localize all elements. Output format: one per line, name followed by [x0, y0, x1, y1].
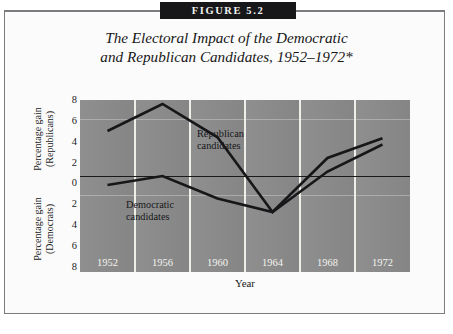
xtick-1968: 1968 — [300, 257, 355, 268]
yaxis-title-republicans-line-2: (Republicans) — [44, 100, 56, 178]
ytick-upper-4: 4 — [57, 137, 77, 147]
figure-banner: FIGURE 5.2 — [160, 2, 296, 19]
xtick-1960: 1960 — [190, 257, 245, 268]
series-line-republican — [108, 104, 383, 212]
chart-series-svg — [80, 100, 410, 272]
ytick-upper-2: 2 — [57, 158, 77, 168]
series-label-democratic-line-2: candidates — [126, 211, 174, 223]
banner-rule-right — [296, 10, 445, 11]
ytick-zero: 0 — [57, 178, 77, 188]
chart-plot-area: Republican candidates Democratic candida… — [80, 100, 410, 272]
xtick-1964: 1964 — [245, 257, 300, 268]
figure-title: The Electoral Impact of the Democratic a… — [0, 28, 453, 66]
figure-title-line-2: and Republican Candidates, 1952–1972* — [0, 47, 453, 66]
figure-title-line-1: The Electoral Impact of the Democratic — [0, 28, 453, 47]
xaxis-title: Year — [80, 277, 410, 289]
xtick-1952: 1952 — [80, 257, 135, 268]
ytick-lower-8: 8 — [57, 262, 77, 272]
ytick-upper-8: 8 — [57, 95, 77, 105]
series-label-democratic-line-1: Democratic — [126, 199, 174, 211]
ytick-lower-2: 2 — [57, 199, 77, 209]
series-label-republican: Republican candidates — [197, 128, 244, 151]
yaxis-title-republicans-line-1: Percentage gain — [32, 100, 44, 178]
yaxis-title-democrats-line-2: (Democrats) — [44, 186, 56, 272]
banner-rule-left — [4, 10, 162, 11]
yaxis-title-democrats: Percentage gain (Democrats) — [32, 186, 55, 272]
xtick-1956: 1956 — [135, 257, 190, 268]
series-label-republican-line-2: candidates — [197, 140, 244, 152]
ytick-upper-6: 6 — [57, 116, 77, 126]
ytick-lower-6: 6 — [57, 241, 77, 251]
yaxis-title-republicans: Percentage gain (Republicans) — [32, 100, 55, 178]
series-label-republican-line-1: Republican — [197, 128, 244, 140]
ytick-lower-4: 4 — [57, 220, 77, 230]
xtick-1972: 1972 — [355, 257, 410, 268]
yaxis-title-democrats-line-1: Percentage gain — [32, 186, 44, 272]
series-label-democratic: Democratic candidates — [126, 199, 174, 222]
